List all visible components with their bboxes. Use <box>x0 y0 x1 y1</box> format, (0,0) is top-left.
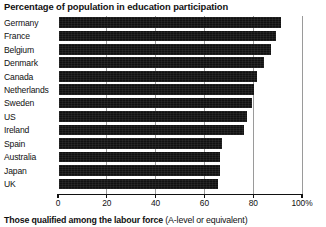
caption-strong: Those qualified among the labour force <box>4 215 163 225</box>
bar-track <box>59 151 326 164</box>
bar-track <box>59 43 326 56</box>
bar-row: Belgium <box>0 43 326 56</box>
bar-track <box>59 16 326 29</box>
category-label-canada: Canada <box>4 72 33 81</box>
category-label-netherlands: Netherlands <box>4 85 49 94</box>
category-label-australia: Australia <box>4 153 36 162</box>
bar-uk <box>59 179 218 190</box>
bar-ireland <box>59 125 244 136</box>
bar-sweden <box>59 98 252 109</box>
bar-track <box>59 137 326 150</box>
bar-japan <box>59 165 220 176</box>
bar-row: Ireland <box>0 124 326 137</box>
plot-area: GermanyFranceBelgiumDenmarkCanadaNetherl… <box>0 16 326 194</box>
bar-belgium <box>59 44 271 55</box>
bar-denmark <box>59 57 264 68</box>
x-tick-label-0: 0 <box>56 199 61 208</box>
x-axis-line <box>58 194 302 195</box>
category-label-ireland: Ireland <box>4 126 29 135</box>
bar-track <box>59 97 326 110</box>
x-tick-label-40: 40 <box>151 199 160 208</box>
bar-track <box>59 124 326 137</box>
category-label-sweden: Sweden <box>4 99 34 108</box>
category-label-spain: Spain <box>4 139 25 148</box>
bar-row: Canada <box>0 70 326 83</box>
bar-track <box>59 83 326 96</box>
bar-row: Australia <box>0 151 326 164</box>
bar-row: Denmark <box>0 56 326 69</box>
category-label-germany: Germany <box>4 18 38 27</box>
bar-netherlands <box>59 84 254 95</box>
bar-track <box>59 164 326 177</box>
bar-france <box>59 31 276 42</box>
category-label-japan: Japan <box>4 166 27 175</box>
bar-us <box>59 111 247 122</box>
bar-row: US <box>0 110 326 123</box>
x-tick-label-80: 80 <box>249 199 258 208</box>
bar-row: Spain <box>0 137 326 150</box>
category-label-denmark: Denmark <box>4 59 38 68</box>
caption-light: (A-level or equivalent) <box>165 215 247 225</box>
bar-canada <box>59 71 257 82</box>
bar-australia <box>59 152 220 163</box>
bar-row: Germany <box>0 16 326 29</box>
category-label-france: France <box>4 32 30 41</box>
x-tick-label-20: 20 <box>102 199 111 208</box>
category-label-belgium: Belgium <box>4 45 34 54</box>
bar-track <box>59 177 326 190</box>
chart-figure: Percentage of population in education pa… <box>0 0 326 227</box>
bar-germany <box>59 17 281 28</box>
bar-track <box>59 29 326 42</box>
bar-track <box>59 56 326 69</box>
x-axis: 020406080100% <box>0 194 326 212</box>
bar-row: France <box>0 29 326 42</box>
bar-track <box>59 110 326 123</box>
bar-row: Netherlands <box>0 83 326 96</box>
chart-caption: Those qualified among the labour force (… <box>4 215 247 225</box>
x-tick-label-100: 100% <box>291 199 312 208</box>
x-tick-label-60: 60 <box>200 199 209 208</box>
bar-spain <box>59 138 222 149</box>
bar-track <box>59 70 326 83</box>
category-label-uk: UK <box>4 180 16 189</box>
bar-row: UK <box>0 177 326 190</box>
category-label-us: US <box>4 112 16 121</box>
chart-title: Percentage of population in education pa… <box>4 1 228 12</box>
bar-row: Sweden <box>0 97 326 110</box>
bar-row: Japan <box>0 164 326 177</box>
